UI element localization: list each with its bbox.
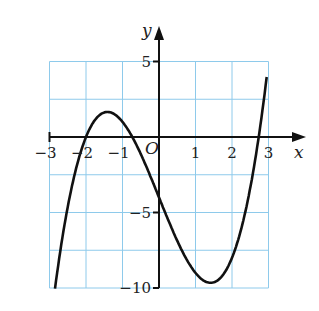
- origin-label: O: [145, 138, 159, 158]
- y-tick-label: 5: [141, 53, 151, 71]
- x-tick-label: −2: [71, 144, 93, 162]
- function-curve: [55, 77, 267, 289]
- x-tick-label: 1: [191, 144, 201, 162]
- y-axis-label: y: [141, 20, 152, 40]
- x-tick-label: −3: [34, 144, 56, 162]
- x-tick-label: 3: [264, 144, 274, 162]
- x-tick-label: 2: [227, 144, 237, 162]
- y-tick-label: −10: [119, 279, 151, 297]
- y-tick-label: −5: [129, 204, 151, 222]
- x-tick-label: −1: [107, 144, 129, 162]
- cubic-graph: −3−2−11235−5−10Oxy: [0, 0, 319, 311]
- x-axis-label: x: [294, 142, 304, 162]
